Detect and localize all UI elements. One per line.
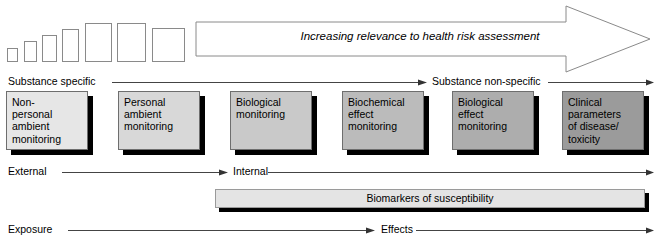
- step-bar: [7, 48, 18, 62]
- monitoring-box-label: Biological monitoring: [230, 91, 312, 120]
- monitoring-boxes-row: Non- personal ambient monitoring Persona…: [0, 91, 655, 157]
- step-bar: [117, 23, 146, 62]
- step-bar: [62, 29, 79, 62]
- step-bar: [85, 23, 112, 62]
- step-bars-group: [0, 0, 200, 62]
- biobar-label: Biomarkers of susceptibility: [215, 189, 645, 208]
- biomarkers-susceptibility-bar: Biomarkers of susceptibility: [215, 189, 645, 208]
- monitoring-box-label: Personal ambient monitoring: [118, 91, 200, 133]
- axis-exposure-effect-arrows: [0, 223, 655, 235]
- big-arrow-label: Increasing relevance to health risk asse…: [300, 30, 540, 43]
- axis-specificity-arrows: [0, 75, 655, 87]
- axis-exposure-effect: Exposure Effects: [0, 222, 655, 238]
- axis-effects-label: Effects: [381, 222, 413, 236]
- monitoring-box: Biological monitoring: [230, 91, 312, 150]
- monitoring-box: Biochemical effect monitoring: [342, 91, 424, 150]
- monitoring-box-label: Non- personal ambient monitoring: [6, 91, 88, 145]
- step-bar: [24, 41, 37, 62]
- step-bar: [152, 28, 185, 62]
- monitoring-box: Clinical parameters of disease/ toxicity: [562, 91, 644, 150]
- monitoring-box-label: Clinical parameters of disease/ toxicity: [562, 91, 644, 145]
- axis-specificity: Substance specific Substance non-specifi…: [0, 74, 655, 90]
- axis-compartment: External Internal: [0, 164, 655, 180]
- monitoring-box-label: Biochemical effect monitoring: [342, 91, 424, 133]
- monitoring-box-label: Biological effect monitoring: [452, 91, 534, 133]
- axis-specificity-right-label: Substance non-specific: [432, 74, 541, 88]
- diagram-canvas: Increasing relevance to health risk asse…: [0, 0, 655, 244]
- axis-compartment-arrows: [0, 165, 655, 177]
- monitoring-box: Non- personal ambient monitoring: [6, 91, 88, 150]
- monitoring-box: Biological effect monitoring: [452, 91, 534, 150]
- monitoring-box: Personal ambient monitoring: [118, 91, 200, 150]
- step-bar: [42, 35, 57, 62]
- axis-compartment-right-label: Internal: [233, 164, 268, 178]
